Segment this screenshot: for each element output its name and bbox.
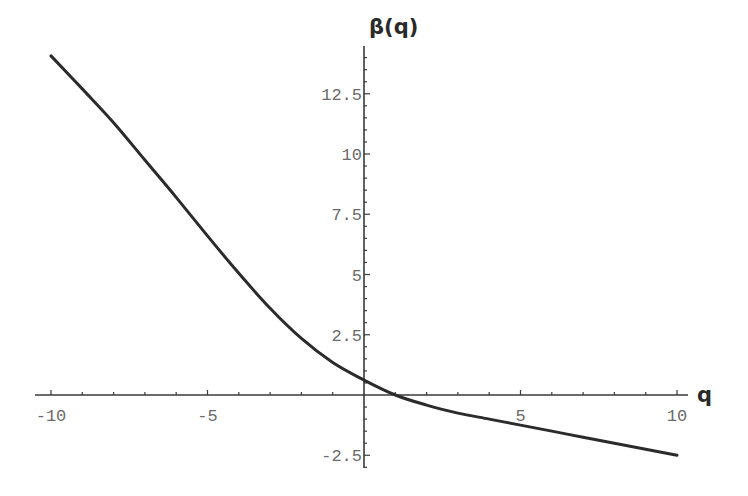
y-tick-label: 12.5: [321, 86, 362, 105]
x-tick-label: -10: [36, 407, 67, 426]
x-axis: [35, 390, 688, 395]
y-tick-label: -2.5: [321, 447, 362, 466]
x-axis-label: q: [697, 383, 712, 407]
y-axis-label: β(q): [369, 15, 418, 39]
y-axis: [364, 46, 370, 468]
x-tick-label: 10: [667, 407, 687, 426]
x-tick-labels: -10-5510: [36, 407, 688, 426]
y-tick-label: 2.5: [331, 327, 362, 346]
y-tick-label: 10: [342, 146, 362, 165]
y-tick-labels: -2.52.557.51012.5: [321, 86, 362, 467]
x-tick-label: -5: [197, 407, 217, 426]
beta-q-chart: -10-5510 -2.52.557.51012.5 q β(q): [0, 0, 748, 496]
y-tick-label: 5: [352, 267, 362, 286]
y-tick-label: 7.5: [331, 206, 362, 225]
